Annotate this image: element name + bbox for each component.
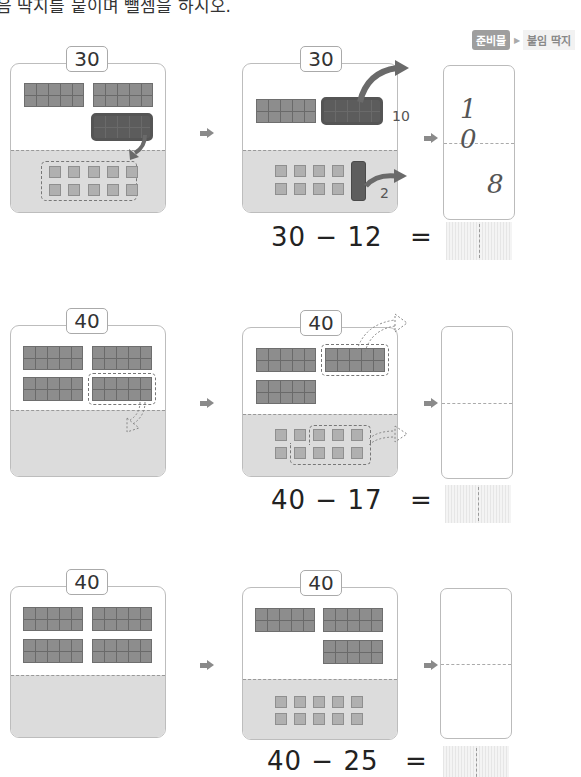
start-number-tag: 40 bbox=[66, 308, 108, 334]
ten-block bbox=[23, 639, 83, 663]
card-divider bbox=[442, 403, 512, 404]
ones-area bbox=[11, 675, 165, 737]
dashed-group bbox=[309, 425, 371, 445]
ten-block bbox=[24, 83, 84, 107]
answer-card[interactable] bbox=[440, 588, 512, 739]
answer-sticker-slot[interactable] bbox=[443, 746, 509, 777]
equals-sign: = bbox=[410, 485, 432, 515]
ten-block bbox=[256, 348, 316, 372]
equals-sign: = bbox=[405, 746, 427, 776]
ten-block bbox=[256, 380, 316, 404]
ten-block bbox=[23, 346, 83, 370]
ten-block bbox=[92, 346, 152, 370]
ten-block bbox=[323, 608, 383, 632]
right-arrow-icon bbox=[200, 128, 214, 138]
ones-removed-label: 2 bbox=[380, 185, 389, 201]
card-tens-digits: 1 0 bbox=[460, 94, 514, 154]
right-arrow-icon bbox=[424, 133, 438, 143]
answer-sticker-slot[interactable] bbox=[445, 485, 511, 523]
dashed-group bbox=[290, 443, 371, 465]
card-ones-digit: 8 bbox=[487, 169, 504, 199]
dashed-regroup-arrow-icon bbox=[125, 400, 155, 435]
start-panel bbox=[10, 586, 166, 738]
ones-area bbox=[243, 679, 397, 739]
take-away-tens-arrow-icon bbox=[355, 60, 415, 105]
materials-badge: 준비물 bbox=[472, 30, 510, 50]
answer-sticker-slot[interactable] bbox=[446, 222, 512, 260]
ten-block bbox=[92, 639, 152, 663]
materials-item: 붙임 딱지 bbox=[523, 30, 575, 50]
tens-removed-label: 10 bbox=[392, 108, 410, 124]
materials-tag: 준비물 ▶ 붙임 딱지 bbox=[472, 30, 575, 50]
right-arrow-icon bbox=[200, 398, 214, 408]
ten-block bbox=[323, 640, 383, 664]
ten-block bbox=[23, 607, 83, 631]
triangle-icon: ▶ bbox=[514, 36, 520, 45]
ten-block bbox=[23, 377, 83, 401]
answer-card[interactable] bbox=[441, 326, 513, 479]
ten-block bbox=[92, 607, 152, 631]
ten-block bbox=[93, 83, 153, 107]
step-panel bbox=[242, 587, 398, 740]
equals-sign: = bbox=[410, 222, 432, 252]
dashed-take-away-ones-arrow-icon bbox=[367, 425, 412, 450]
step-number-tag: 40 bbox=[300, 570, 342, 596]
dashed-take-away-tens-arrow-icon bbox=[355, 310, 415, 355]
start-number-tag: 30 bbox=[66, 46, 108, 72]
right-arrow-icon bbox=[200, 660, 214, 670]
instruction-text: 음 딱지를 붙이며 뺄셈을 하시오. bbox=[0, 0, 231, 17]
ten-block bbox=[256, 99, 316, 123]
step-number-tag: 40 bbox=[300, 310, 342, 336]
card-divider bbox=[441, 664, 511, 665]
answer-card[interactable]: 1 0 8 bbox=[443, 65, 515, 220]
equation: 40 − 25 bbox=[267, 746, 378, 776]
step-number-tag: 30 bbox=[300, 46, 342, 72]
regroup-arrow-icon bbox=[125, 133, 155, 163]
right-arrow-icon bbox=[424, 398, 438, 408]
start-number-tag: 40 bbox=[66, 569, 108, 595]
equation: 30 − 12 bbox=[271, 222, 382, 252]
right-arrow-icon bbox=[424, 660, 438, 670]
ten-block bbox=[255, 608, 315, 632]
equation: 40 − 17 bbox=[271, 485, 382, 515]
